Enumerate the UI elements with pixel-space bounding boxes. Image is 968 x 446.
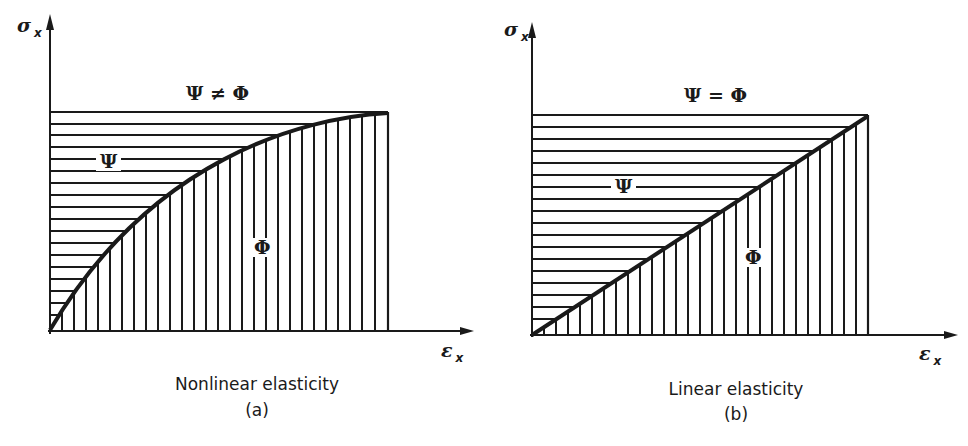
panel-b-x-arrow-icon [944,331,958,339]
panel-a-y-arrow-icon [46,14,54,30]
panel-a-phi-label: Φ [250,238,275,257]
panel-b-x-axis-label: εx [919,344,941,363]
subscript: x [34,26,42,40]
panel-a-phi-hatching [62,110,375,331]
panel-a-plot [46,14,474,335]
panel-b-plot [528,22,958,339]
subscript: x [521,30,529,44]
subscript: x [456,351,464,365]
subscript: x [934,354,942,368]
epsilon-symbol: ε [441,339,453,361]
panel-b-y-axis-label: σx [504,20,529,39]
panel-b-caption: Linear elasticity [606,381,866,398]
panel-a-psi-label: Ψ [96,152,121,171]
panel-a-x-axis-label: εx [441,341,463,360]
panel-a-x-arrow-icon [460,327,474,335]
panel-a-caption: Nonlinear elasticity [127,376,387,393]
panel-b-relation-label: Ψ = Φ [684,86,747,105]
sigma-symbol: σ [17,14,31,36]
epsilon-symbol: ε [919,342,931,364]
panel-b-psi-label: Ψ [611,177,636,196]
panel-a-y-axis-label: σx [17,16,42,35]
panel-b-label: (b) [606,406,866,423]
panel-a-relation-label: Ψ ≠ Φ [186,84,249,103]
panel-b-phi-label: Φ [741,248,766,267]
sigma-symbol: σ [504,18,518,40]
panel-b-y-arrow-icon [528,22,536,38]
panel-a-label: (a) [127,402,387,419]
